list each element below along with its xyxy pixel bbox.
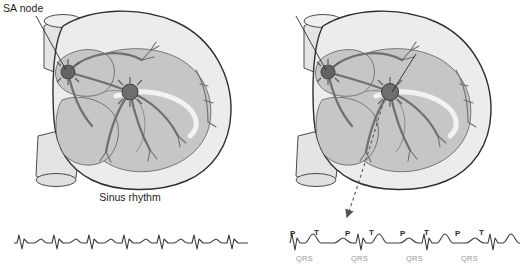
ecg-label-p-0: P: [290, 229, 295, 238]
ecg-label-qrs-3: QRS: [461, 254, 478, 263]
figure-canvas: SA node Sinus rhythm: [0, 0, 520, 273]
ecg-label-t-3: T: [479, 228, 484, 237]
ecg-label-p-3: P: [455, 229, 460, 238]
label-sa-node-left: SA node: [3, 3, 43, 15]
heart-diagram-sinus: [0, 0, 260, 273]
ecg-label-qrs-0: QRS: [296, 254, 313, 263]
ecg-label-p-2: P: [400, 229, 405, 238]
ecg-label-p-1: P: [345, 229, 350, 238]
caption-sinus-rhythm: Sinus rhythm: [0, 191, 260, 203]
ecg-sinus-trace: [14, 235, 248, 249]
ecg-label-t-1: T: [369, 228, 374, 237]
ecg-label-qrs-1: QRS: [351, 254, 368, 263]
ecg-label-qrs-2: QRS: [406, 254, 423, 263]
panel-sinus-rhythm: SA node Sinus rhythm: [0, 0, 260, 273]
ecg-label-t-0: T: [314, 228, 319, 237]
ecg-label-t-2: T: [424, 228, 429, 237]
